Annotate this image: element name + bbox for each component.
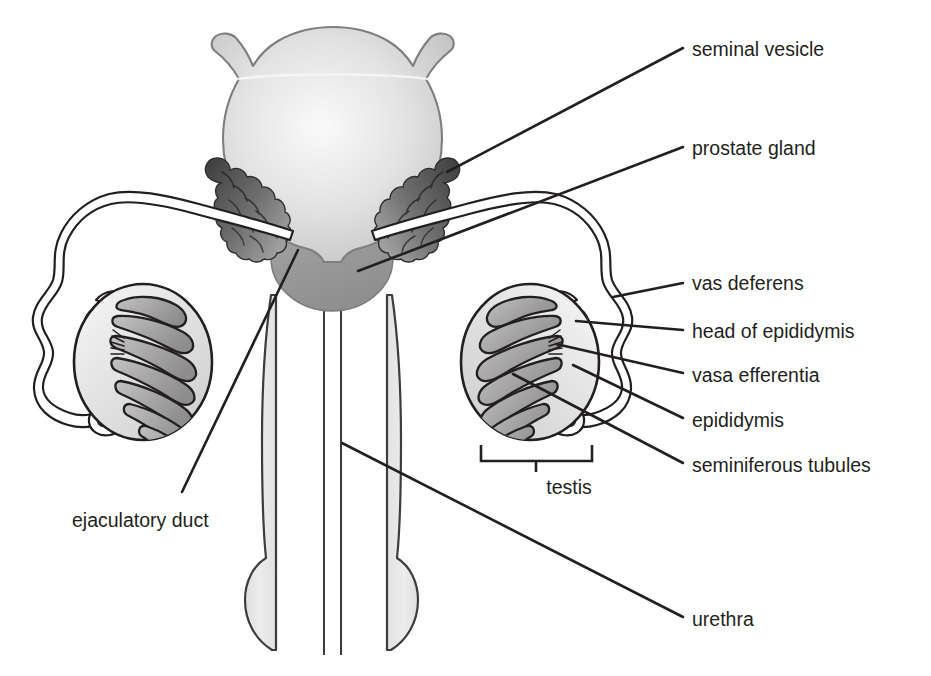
urethra-lumen: [325, 262, 340, 655]
label-vas-deferens: vas deferens: [692, 272, 804, 294]
penis-urethra-group: [245, 262, 418, 655]
label-ejaculatory-duct: ejaculatory duct: [72, 509, 209, 531]
label-testis: testis: [546, 476, 592, 498]
label-prostate-gland: prostate gland: [692, 137, 816, 159]
label-urethra: urethra: [692, 608, 754, 630]
diagram-canvas: seminal vesicle prostate gland vas defer…: [0, 0, 931, 676]
label-head-of-epididymis: head of epididymis: [692, 320, 855, 342]
seminiferous-tubules-right: [477, 297, 563, 470]
testis-bracket: [481, 445, 592, 461]
label-vasa-efferentia: vasa efferentia: [692, 364, 820, 386]
leader-vas-deferens: [613, 283, 683, 297]
leader-seminal-vesicle: [447, 48, 683, 172]
label-seminal-vesicle: seminal vesicle: [692, 38, 824, 60]
seminiferous-tubules-left: [110, 297, 196, 470]
label-epididymis: epididymis: [692, 409, 784, 431]
label-seminiferous-tubules: seminiferous tubules: [692, 454, 871, 476]
testis-left-group: [74, 284, 212, 470]
testis-right-group: [461, 284, 599, 470]
testis-bracket-group: [481, 445, 592, 472]
